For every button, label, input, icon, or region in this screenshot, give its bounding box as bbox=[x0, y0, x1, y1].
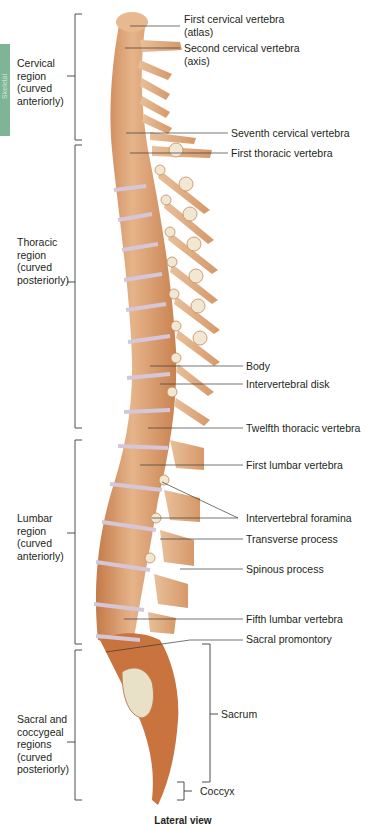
region-line: Sacral and bbox=[17, 713, 69, 726]
label-sacral-promontory: Sacral promontory bbox=[246, 633, 332, 646]
label-line: (atlas) bbox=[184, 26, 284, 39]
label-fifth-lumbar-vertebra: Fifth lumbar vertebra bbox=[246, 613, 343, 626]
region-line: Lumbar bbox=[17, 512, 64, 525]
label-sacrum: Sacrum bbox=[221, 708, 257, 721]
label-line: (axis) bbox=[184, 55, 300, 68]
label-first-thoracic-vertebra: First thoracic vertebra bbox=[231, 147, 333, 160]
label-second-cervical-vertebra: Second cervical vertebra (axis) bbox=[184, 42, 300, 67]
label-first-cervical-vertebra: First cervical vertebra (atlas) bbox=[184, 13, 284, 38]
label-coccyx: Coccyx bbox=[200, 785, 234, 798]
region-line: anteriorly) bbox=[17, 95, 64, 108]
label-line: Second cervical vertebra bbox=[184, 42, 300, 55]
region-line: (curved bbox=[17, 82, 64, 95]
spine-illustration bbox=[0, 0, 366, 830]
label-first-lumbar-vertebra: First lumbar vertebra bbox=[246, 459, 343, 472]
label-seventh-cervical-vertebra: Seventh cervical vertebra bbox=[231, 127, 349, 140]
region-label-cervical: Cervical region (curved anteriorly) bbox=[17, 57, 64, 107]
region-label-lumbar: Lumbar region (curved anteriorly) bbox=[17, 512, 64, 562]
region-line: Thoracic bbox=[17, 236, 69, 249]
region-line: region bbox=[17, 249, 69, 262]
label-body: Body bbox=[246, 360, 270, 373]
region-line: anteriorly) bbox=[17, 550, 64, 563]
region-line: region bbox=[17, 70, 64, 83]
region-label-thoracic: Thoracic region (curved posteriorly) bbox=[17, 236, 69, 286]
region-line: (curved bbox=[17, 751, 69, 764]
label-line: First cervical vertebra bbox=[184, 13, 284, 26]
region-line: posteriorly) bbox=[17, 763, 69, 776]
region-line: (curved bbox=[17, 537, 64, 550]
label-intervertebral-foramina: Intervertebral foramina bbox=[246, 512, 352, 525]
label-twelfth-thoracic-vertebra: Twelfth thoracic vertebra bbox=[246, 422, 360, 435]
region-line: Cervical bbox=[17, 57, 64, 70]
region-line: region bbox=[17, 525, 64, 538]
figure-caption: Lateral view bbox=[0, 815, 366, 826]
region-line: posteriorly) bbox=[17, 274, 69, 287]
region-line: regions bbox=[17, 738, 69, 751]
label-intervertebral-disk: Intervertebral disk bbox=[246, 378, 329, 391]
label-transverse-process: Transverse process bbox=[246, 533, 338, 546]
region-label-sacral: Sacral and coccygeal regions (curved pos… bbox=[17, 713, 69, 776]
label-spinous-process: Spinous process bbox=[246, 563, 324, 576]
region-line: coccygeal bbox=[17, 726, 69, 739]
region-line: (curved bbox=[17, 261, 69, 274]
